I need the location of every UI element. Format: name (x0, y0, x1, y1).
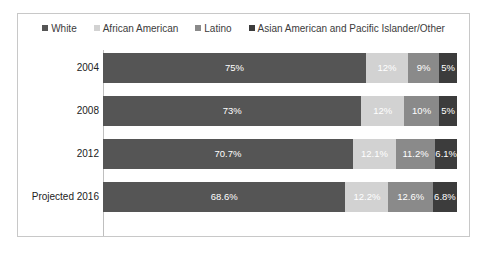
bar-segment[interactable]: 75% (103, 53, 366, 83)
bar-segment-value: 6.1% (435, 149, 457, 159)
legend-item-label: Latino (204, 24, 231, 34)
category-axis-label: 2008 (18, 106, 99, 116)
bar-segment[interactable]: 6.1% (435, 139, 457, 169)
bar-segment[interactable]: 68.6% (103, 182, 345, 212)
bar-segment[interactable]: 70.7% (103, 139, 353, 169)
legend-item-label: White (51, 24, 77, 34)
bar-segment-value: 12.6% (397, 192, 424, 202)
stacked-bar: 70.7%12.1%11.2%6.1% (103, 139, 457, 169)
legend-item[interactable]: White (42, 24, 77, 34)
bar-segment-value: 73% (223, 106, 242, 116)
bar-segment-value: 10% (412, 106, 431, 116)
bar-segment[interactable]: 9% (408, 53, 440, 83)
chart-row: 201270.7%12.1%11.2%6.1% (18, 139, 469, 169)
bar-segment-value: 68.6% (211, 192, 238, 202)
bar-segment[interactable]: 12.6% (388, 182, 433, 212)
bar-segment[interactable]: 12% (361, 96, 403, 126)
bar-segment-value: 5% (441, 106, 455, 116)
chart-row: 200475%12%9%5% (18, 53, 469, 83)
legend-square-marker (42, 25, 48, 31)
bar-segment-value: 5% (441, 63, 455, 73)
bar-segment-value: 12.2% (353, 192, 380, 202)
chart-row: Projected 201668.6%12.2%12.6%6.8% (18, 182, 469, 212)
stacked-bar: 73%12%10%5% (103, 96, 457, 126)
chart-frame: WhiteAfrican AmericanLatinoAsian America… (17, 13, 470, 237)
bar-segment-value: 75% (225, 63, 244, 73)
bar-segment-value: 11.2% (402, 149, 428, 159)
bar-segment[interactable]: 11.2% (396, 139, 436, 169)
legend-item[interactable]: African American (94, 24, 179, 34)
bar-segment[interactable]: 12.2% (345, 182, 388, 212)
chart-row: 200873%12%10%5% (18, 96, 469, 126)
legend-item-label: Asian American and Pacific Islander/Othe… (258, 24, 445, 34)
legend-item-label: African American (103, 24, 179, 34)
bar-segment-value: 6.8% (434, 192, 456, 202)
bar-segment[interactable]: 10% (404, 96, 439, 126)
bar-segment-value: 12% (377, 63, 396, 73)
legend-square-marker (94, 25, 100, 31)
bar-segment-value: 9% (417, 63, 431, 73)
category-axis-label: 2012 (18, 149, 99, 159)
stacked-bar: 68.6%12.2%12.6%6.8% (103, 182, 457, 212)
bar-segment[interactable]: 6.8% (433, 182, 457, 212)
legend-item[interactable]: Latino (195, 24, 231, 34)
category-axis-label: Projected 2016 (18, 192, 99, 202)
stacked-bar: 75%12%9%5% (103, 53, 457, 83)
plot-area: 200475%12%9%5%200873%12%10%5%201270.7%12… (18, 50, 469, 236)
bar-segment[interactable]: 73% (103, 96, 361, 126)
bar-segment-value: 12% (373, 106, 392, 116)
bar-segment[interactable]: 12% (366, 53, 408, 83)
chart-legend: WhiteAfrican AmericanLatinoAsian America… (18, 24, 469, 34)
legend-item[interactable]: Asian American and Pacific Islander/Othe… (249, 24, 445, 34)
bar-segment[interactable]: 12.1% (353, 139, 396, 169)
bar-segment[interactable]: 5% (439, 96, 457, 126)
legend-square-marker (195, 25, 201, 31)
bar-segment[interactable]: 5% (439, 53, 457, 83)
bar-segment-value: 12.1% (361, 149, 388, 159)
legend-square-marker (249, 25, 255, 31)
bar-segment-value: 70.7% (215, 149, 242, 159)
category-axis-label: 2004 (18, 63, 99, 73)
